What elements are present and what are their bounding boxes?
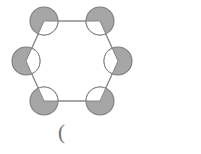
hexagon-node[interactable] <box>30 87 58 115</box>
hexagon-node[interactable] <box>12 47 40 75</box>
hexagon-node[interactable] <box>86 7 114 35</box>
hexagon-node[interactable] <box>30 7 58 35</box>
hexagon-node-diagram <box>0 0 201 154</box>
hexagon-node[interactable] <box>86 87 114 115</box>
hexagon-node[interactable] <box>104 47 132 75</box>
